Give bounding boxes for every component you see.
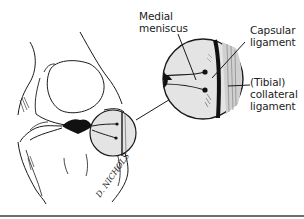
knee-anatomy-figure: D. NICHOLS Medial meniscus Capsular liga… (0, 0, 304, 219)
label-medial-meniscus: Medial meniscus (139, 10, 188, 34)
inset-connector-line (136, 98, 172, 120)
tibial-tuberosity-left (64, 158, 68, 174)
artist-signature: D. NICHOLS (94, 151, 132, 200)
patella (47, 61, 104, 113)
svg-text:D. NICHOLS: D. NICHOLS (94, 151, 132, 200)
menisci-junction (62, 119, 92, 134)
tibial-tuberosity-right (86, 154, 88, 176)
femur-right-contour (80, 32, 122, 104)
bottom-divider (0, 215, 304, 217)
label-tibial-collateral-ligament: (Tibial) collateral ligament (250, 76, 298, 112)
femur-left-contour (18, 42, 35, 115)
label-capsular-ligament: Capsular ligament (250, 24, 296, 48)
inset-source-circle (90, 110, 136, 156)
